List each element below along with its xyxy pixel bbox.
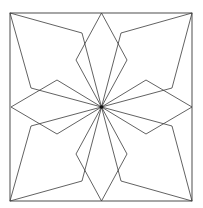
kite-top-right: [102, 13, 193, 107]
pattern-drawing: [0, 0, 203, 208]
diamond-bottom: [76, 107, 127, 201]
kite-top-left: [10, 13, 102, 107]
diamond-top: [76, 13, 127, 107]
center-point: [100, 105, 104, 109]
diamond-right: [102, 80, 193, 134]
geometric-star-pattern: [0, 0, 203, 208]
kite-bottom-right: [102, 107, 193, 201]
diamond-left: [11, 80, 102, 134]
kite-bottom-left: [10, 107, 102, 201]
